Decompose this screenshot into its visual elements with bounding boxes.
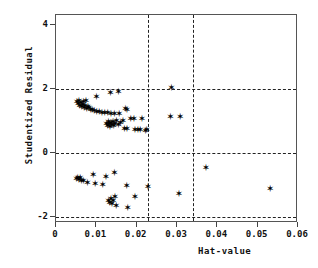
reference-line-h-0 — [56, 89, 296, 90]
x-tick-mark — [95, 222, 96, 227]
x-tick-mark — [297, 222, 298, 227]
x-tick-label: 0.04 — [196, 229, 236, 239]
x-tick-label: 0.03 — [156, 229, 196, 239]
data-point: ✶ — [266, 184, 275, 193]
x-tick-label: 0.05 — [237, 229, 277, 239]
data-point: ✶ — [131, 192, 140, 201]
data-point: ✶ — [92, 92, 101, 101]
data-point: ✶ — [123, 203, 132, 212]
data-point: ✶ — [176, 112, 185, 121]
y-tick-label: 0 — [24, 147, 48, 157]
plot-frame: ✶✶✶✶✶✶✶✶✶✶✶✶✶✶✶✶✶✶✶✶✶✶✶✶✶✶✶✶✶✶✶✶✶✶✶✶✶✶✶✶… — [55, 14, 297, 222]
plot-area: ✶✶✶✶✶✶✶✶✶✶✶✶✶✶✶✶✶✶✶✶✶✶✶✶✶✶✶✶✶✶✶✶✶✶✶✶✶✶✶✶… — [56, 15, 296, 221]
x-tick-mark — [216, 222, 217, 227]
x-tick-label: 0 — [35, 229, 75, 239]
data-point: ✶ — [202, 163, 211, 172]
data-point: ✶ — [137, 114, 146, 123]
data-point: ✶ — [166, 112, 175, 121]
x-tick-mark — [136, 222, 137, 227]
data-point: ✶ — [110, 168, 119, 177]
x-axis-label: Hat-value — [198, 246, 251, 256]
data-point: ✶ — [114, 87, 123, 96]
reference-line-v-1 — [193, 15, 194, 221]
reference-line-h-2 — [56, 217, 296, 218]
reference-line-h-1 — [56, 153, 296, 154]
data-point: ✶ — [175, 189, 184, 198]
y-tick-label: 2 — [24, 83, 48, 93]
data-point: ✶ — [167, 83, 176, 92]
y-axis-label: Studentized Residual — [24, 20, 34, 190]
y-tick-label: 4 — [24, 19, 48, 29]
x-tick-label: 0.01 — [75, 229, 115, 239]
x-tick-mark — [55, 222, 56, 227]
data-point: ✶ — [112, 201, 121, 210]
scatter-plot-figure: Studentized Residual 420-2 ✶✶✶✶✶✶✶✶✶✶✶✶✶… — [0, 0, 318, 268]
x-tick-mark — [257, 222, 258, 227]
data-point: ✶ — [143, 182, 152, 191]
data-point: ✶ — [122, 181, 131, 190]
data-point: ✶ — [142, 125, 151, 134]
x-tick-mark — [176, 222, 177, 227]
x-tick-label: 0.02 — [116, 229, 156, 239]
x-tick-label: 0.06 — [277, 229, 317, 239]
y-tick-label: -2 — [24, 211, 48, 221]
